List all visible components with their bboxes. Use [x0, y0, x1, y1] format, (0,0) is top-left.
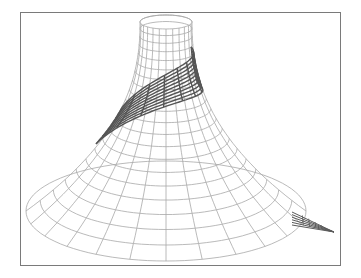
meridian-line	[67, 27, 148, 247]
meridian-line	[45, 26, 144, 237]
meridian-line	[191, 24, 301, 224]
meridian-line	[192, 22, 306, 211]
meridian-line	[130, 29, 160, 259]
wireframe-surface	[0, 0, 361, 278]
helix-band	[96, 47, 203, 144]
helix-band-rung	[164, 75, 165, 107]
meridian-line	[96, 28, 153, 254]
meridian-line	[184, 27, 265, 247]
top-rim	[140, 15, 192, 22]
meridian-line	[189, 26, 288, 237]
base-spike	[292, 212, 334, 232]
figure-canvas: Wireframe 3D surface: funnel-shaped surf…	[0, 0, 361, 278]
funnel-mesh	[26, 15, 306, 261]
